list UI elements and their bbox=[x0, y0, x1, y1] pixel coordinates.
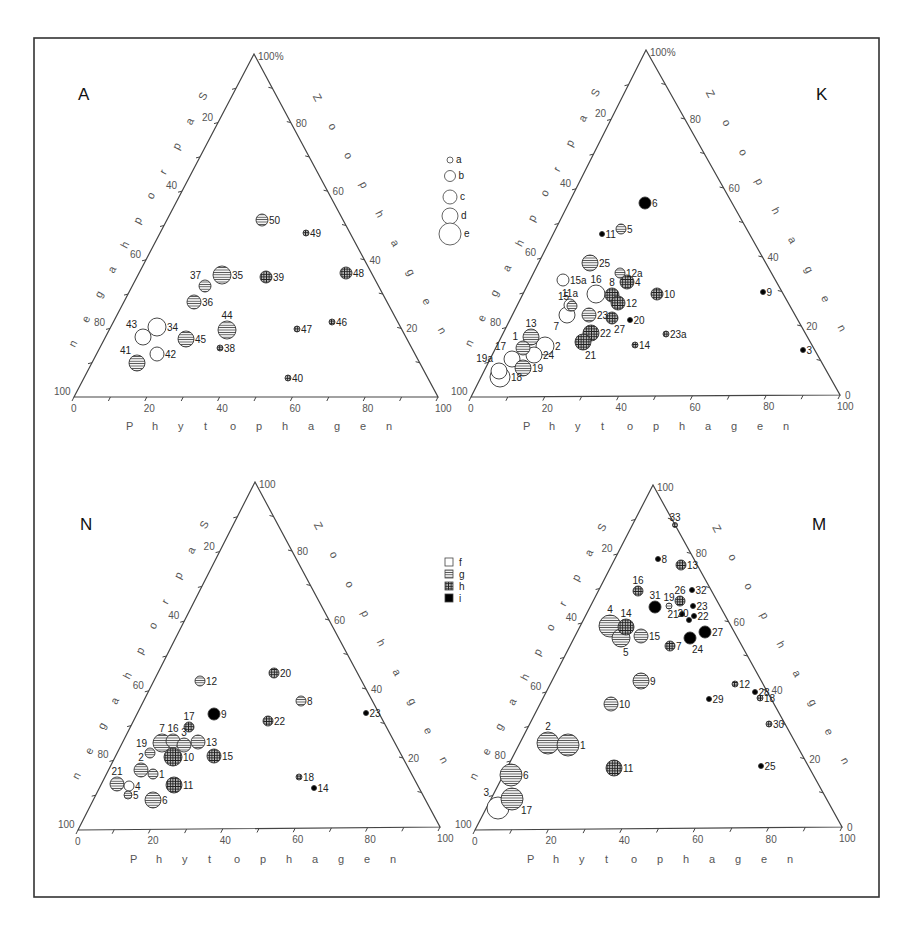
point-label: 12 bbox=[626, 298, 638, 309]
bottom-axis-letter: h bbox=[286, 853, 292, 865]
data-point bbox=[759, 764, 764, 769]
point-label: 22 bbox=[698, 611, 710, 622]
point-label: 6 bbox=[652, 198, 658, 209]
bottom-tick-label: 80 bbox=[362, 403, 374, 414]
bottom-axis-letter: h bbox=[679, 420, 685, 432]
right-axis-letter: a bbox=[390, 666, 404, 678]
left-tick-label: 60 bbox=[525, 247, 537, 258]
point-label: 5 bbox=[133, 790, 139, 801]
bottom-axis-letter: h bbox=[549, 420, 555, 432]
bottom-axis-letter: p bbox=[657, 853, 663, 865]
point-label: 45 bbox=[195, 334, 207, 345]
right-axis-letter: o bbox=[327, 549, 340, 560]
right-axis-letter: a bbox=[790, 668, 804, 680]
data-point bbox=[753, 690, 758, 695]
left-axis-letter: o bbox=[144, 190, 157, 201]
left-axis-letter: p bbox=[131, 215, 144, 226]
bottom-axis-letter: t bbox=[605, 853, 608, 865]
left-axis-letter: a bbox=[183, 115, 197, 127]
data-point bbox=[656, 557, 661, 562]
right-axis-letter: o bbox=[342, 150, 355, 161]
data-point bbox=[129, 355, 145, 371]
right-axis-letter: g bbox=[803, 264, 816, 275]
right-axis-letter: p bbox=[753, 176, 766, 187]
right-tick-label: 60 bbox=[729, 183, 741, 194]
point-label: 2 bbox=[555, 341, 561, 352]
left-tick-label: 40 bbox=[166, 180, 178, 191]
left-tick-label: 100 bbox=[451, 386, 468, 397]
point-label: 35 bbox=[232, 270, 244, 281]
point-label: 29 bbox=[713, 694, 725, 705]
point-label: 47 bbox=[301, 324, 313, 335]
point-label: 9 bbox=[767, 287, 773, 298]
point-label: 2 bbox=[545, 721, 551, 732]
right-axis-letter: n bbox=[839, 755, 852, 766]
left-tick-label: 100 bbox=[54, 386, 71, 397]
data-point bbox=[618, 619, 634, 635]
data-point bbox=[187, 295, 201, 309]
point-label: 5 bbox=[627, 224, 633, 235]
bottom-axis-letter: p bbox=[260, 853, 266, 865]
point-label: 10 bbox=[619, 699, 631, 710]
data-point bbox=[516, 341, 530, 355]
point-label: 20 bbox=[677, 608, 689, 619]
point-label: 7 bbox=[676, 641, 682, 652]
data-point bbox=[651, 288, 663, 300]
data-point bbox=[692, 614, 697, 619]
left-axis-letter: S bbox=[595, 521, 609, 533]
left-axis-letter: a bbox=[505, 695, 519, 707]
right-tick-label: 20 bbox=[806, 321, 818, 332]
left-axis-letter: p bbox=[170, 140, 183, 151]
point-label: 7 bbox=[553, 321, 559, 332]
data-point bbox=[639, 197, 651, 209]
point-label: 6 bbox=[523, 770, 529, 781]
point-label: 8 bbox=[662, 554, 668, 565]
bottom-tick-label: 80 bbox=[365, 834, 377, 845]
left-axis-letter: n bbox=[69, 770, 82, 781]
fill-legend-swatch bbox=[445, 582, 453, 590]
point-label: 13 bbox=[206, 737, 218, 748]
right-axis-letter: g bbox=[807, 697, 820, 708]
point-label: 27 bbox=[712, 627, 724, 638]
data-point bbox=[611, 296, 625, 310]
bottom-tick-label: 60 bbox=[292, 834, 304, 845]
left-axis-letter: a bbox=[105, 263, 119, 275]
bottom-axis-letter: h bbox=[683, 853, 689, 865]
data-point bbox=[329, 319, 335, 325]
point-label: 38 bbox=[224, 343, 236, 354]
left-axis-letter: a bbox=[576, 112, 590, 124]
bottom-tick-label: 100 bbox=[839, 833, 856, 844]
left-axis-letter: a bbox=[582, 546, 596, 558]
point-label: 9 bbox=[650, 676, 656, 687]
bottom-axis-letter: y bbox=[575, 420, 581, 432]
bottom-axis-letter: e bbox=[360, 420, 366, 432]
ternary-figure: 02040608010020406080100100%80604020Phyto… bbox=[0, 0, 912, 927]
bottom-axis-letter: a bbox=[312, 853, 319, 865]
bottom-axis-letter: g bbox=[731, 420, 737, 432]
fill-legend-label: f bbox=[459, 557, 462, 568]
left-axis-letter: o bbox=[146, 620, 159, 631]
left-axis-letter: p bbox=[569, 572, 582, 583]
data-point bbox=[218, 321, 236, 339]
panel-letter: M bbox=[812, 515, 826, 534]
left-tick-label: 20 bbox=[595, 108, 607, 119]
left-axis-letter: o bbox=[538, 187, 551, 198]
point-label: 14 bbox=[318, 783, 330, 794]
data-point bbox=[575, 334, 591, 350]
right-axis-letter: p bbox=[358, 179, 371, 190]
data-point bbox=[150, 347, 164, 361]
point-label: 15 bbox=[558, 291, 570, 302]
point-label: 19 bbox=[532, 363, 544, 374]
right-tick-label: 80 bbox=[696, 548, 708, 559]
data-point bbox=[296, 774, 302, 780]
triangle-outline bbox=[475, 485, 842, 830]
right-axis-letter: e bbox=[422, 725, 435, 736]
point-label: 3 bbox=[181, 727, 187, 738]
bottom-axis-letter: e bbox=[757, 420, 763, 432]
bottom-axis-letter: P bbox=[527, 853, 534, 865]
data-point bbox=[676, 560, 686, 570]
right-axis-letter: o bbox=[720, 117, 733, 128]
left-tick-label: 80 bbox=[495, 750, 507, 761]
left-axis-letter: h bbox=[518, 671, 531, 682]
bottom-axis-letter: p bbox=[256, 420, 262, 432]
